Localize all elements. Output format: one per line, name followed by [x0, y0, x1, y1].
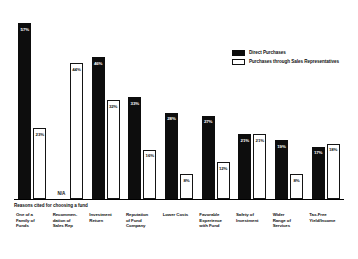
- bar-value-label: 44%: [71, 67, 82, 72]
- category-label-line: Services: [273, 223, 308, 229]
- category-label: Lower Costs: [163, 212, 198, 218]
- bar-value-label: 57%: [19, 27, 30, 32]
- bar-direct-purchases: 21%: [238, 134, 251, 199]
- bar-value-label: 21%: [254, 138, 265, 143]
- bar-direct-purchases: 28%: [165, 113, 178, 199]
- bar-direct-purchases: 19%: [275, 140, 288, 199]
- bar-group: 57%23%: [14, 14, 51, 199]
- bar-direct-purchases: 33%: [128, 97, 141, 199]
- bar-group: 17%18%: [307, 14, 344, 199]
- category-label: Reputationof FundCompany: [126, 212, 161, 229]
- category-label: WiderRange ofServices: [273, 212, 308, 229]
- category-label-line: with Fund: [199, 223, 234, 229]
- category-label: Tax-FreeYield/Income: [309, 212, 344, 223]
- bar-group-inner: 27%12%: [197, 14, 234, 199]
- bar-sales-representatives: 8%: [180, 174, 193, 199]
- bar-sales-representatives: 23%: [33, 128, 46, 199]
- bar-direct-purchases: 57%: [18, 23, 31, 199]
- bar-group-inner: 19%8%: [271, 14, 308, 199]
- bar-sales-representatives: 12%: [217, 162, 230, 199]
- category-label: Recommen-dation ofSales Rep: [53, 212, 88, 229]
- category-label-line: Lower Costs: [163, 212, 198, 218]
- bar-sales-representatives: 18%: [327, 144, 340, 200]
- bar-value-label: 21%: [239, 138, 250, 143]
- bar-direct-purchases: 17%: [312, 147, 325, 199]
- bar-group-inner: 28%8%: [161, 14, 198, 199]
- bar-sales-representatives: 16%: [143, 150, 156, 199]
- bar-value-label: 23%: [34, 132, 45, 137]
- bar-value-label: 19%: [276, 144, 287, 149]
- category-label: One of aFamily ofFunds: [16, 212, 51, 229]
- bar-chart: Direct Purchases Purchases through Sales…: [0, 0, 358, 259]
- category-label-line: Return: [89, 218, 124, 224]
- category-label: InvestmentReturn: [89, 212, 124, 223]
- bar-na-label: N/A: [55, 191, 68, 196]
- category-label-line: Investment: [236, 218, 271, 224]
- bar-value-label: 8%: [291, 178, 302, 183]
- bar-not-available: N/A: [55, 185, 68, 199]
- category-label-line: Funds: [16, 223, 51, 229]
- bar-group: 19%8%: [271, 14, 308, 199]
- category-label: Safety ofInvestment: [236, 212, 271, 223]
- bar-group: 33%16%: [124, 14, 161, 199]
- category-label: FavorableExperiencewith Fund: [199, 212, 234, 229]
- bar-sales-representatives: 8%: [290, 174, 303, 199]
- bar-group: 46%32%: [87, 14, 124, 199]
- bar-value-label: 27%: [203, 119, 214, 124]
- bar-group-inner: 21%21%: [234, 14, 271, 199]
- plot-area: 57%23%N/A44%46%32%33%16%28%8%27%12%21%21…: [14, 14, 344, 200]
- bar-group: 28%8%: [161, 14, 198, 199]
- bar-value-label: 46%: [93, 61, 104, 66]
- bar-group-inner: 17%18%: [307, 14, 344, 199]
- x-axis-baseline: [14, 199, 344, 200]
- bar-group-inner: 33%16%: [124, 14, 161, 199]
- bar-direct-purchases: 27%: [202, 116, 215, 199]
- bar-value-label: 16%: [144, 153, 155, 158]
- bar-value-label: 12%: [218, 166, 229, 171]
- bar-group-inner: N/A44%: [51, 14, 88, 199]
- bar-group-inner: 57%23%: [14, 14, 51, 199]
- category-label-line: Company: [126, 223, 161, 229]
- bar-value-label: 8%: [181, 178, 192, 183]
- bar-sales-representatives: 32%: [107, 100, 120, 199]
- bar-group: 21%21%: [234, 14, 271, 199]
- bar-value-label: 33%: [129, 101, 140, 106]
- bar-value-label: 32%: [108, 104, 119, 109]
- bar-value-label: 18%: [328, 147, 339, 152]
- category-axis-labels: One of aFamily ofFundsRecommen-dation of…: [14, 212, 344, 252]
- chart-subtitle: Reasons cited for choosing a fund: [14, 203, 88, 208]
- bar-group: 27%12%: [197, 14, 234, 199]
- category-label-line: Sales Rep: [53, 223, 88, 229]
- bar-sales-representatives: 44%: [70, 63, 83, 199]
- category-label-line: Yield/Income: [309, 218, 344, 224]
- bar-direct-purchases: 46%: [92, 57, 105, 199]
- bar-value-label: 17%: [313, 150, 324, 155]
- bar-group-inner: 46%32%: [87, 14, 124, 199]
- bar-sales-representatives: 21%: [253, 134, 266, 199]
- bar-value-label: 28%: [166, 116, 177, 121]
- bar-group: N/A44%: [51, 14, 88, 199]
